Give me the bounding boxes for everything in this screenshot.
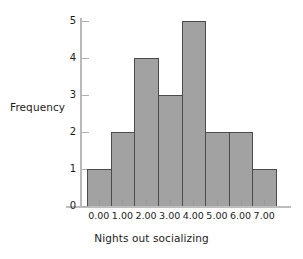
x-tick <box>264 200 265 206</box>
bar <box>134 58 159 206</box>
y-axis-line <box>80 18 82 208</box>
y-tick-0 <box>82 206 89 207</box>
x-tick <box>217 200 218 206</box>
x-tick <box>99 200 100 206</box>
bar <box>229 132 254 206</box>
y-tick-label: 5 <box>60 15 76 26</box>
x-tick-label: 7.00 <box>249 210 279 221</box>
y-tick-label: 1 <box>60 163 76 174</box>
bar <box>158 95 183 206</box>
x-tick <box>241 200 242 206</box>
x-tick <box>122 200 123 206</box>
y-tick-label: 4 <box>60 52 76 63</box>
y-tick-label: 3 <box>60 89 76 100</box>
x-tick <box>193 200 194 206</box>
bar-series <box>87 22 276 206</box>
x-axis-label: Nights out socializing <box>0 232 303 244</box>
x-tick <box>146 200 147 206</box>
bar <box>111 132 136 206</box>
y-axis-label: Frequency <box>10 101 76 113</box>
plot-area <box>87 16 276 206</box>
bar <box>205 132 230 206</box>
bar <box>182 21 207 206</box>
x-tick <box>170 200 171 206</box>
y-tick-label: 0 <box>60 200 76 211</box>
y-tick-label: 2 <box>60 126 76 137</box>
histogram-chart: Frequency 012345 0.001.002.003.004.005.0… <box>0 0 303 259</box>
x-axis-line <box>66 206 291 208</box>
